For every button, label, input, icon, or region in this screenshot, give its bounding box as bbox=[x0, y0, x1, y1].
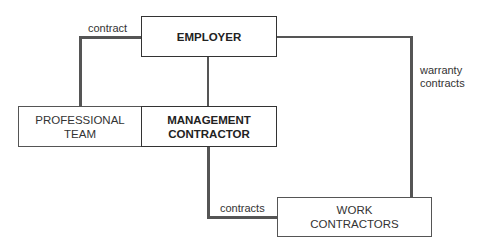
edge-warranty-horizontal bbox=[276, 36, 413, 38]
edge-warranty-vertical bbox=[410, 36, 413, 198]
node-professional-team-line2: TEAM bbox=[64, 127, 96, 141]
node-management-contractor-line2: CONTRACTOR bbox=[168, 127, 250, 141]
edge-employer-professional-vertical bbox=[79, 36, 82, 107]
node-work-contractors-line2: CONTRACTORS bbox=[310, 217, 399, 231]
node-employer-label: EMPLOYER bbox=[177, 30, 242, 44]
edge-label-warranty-line2: contracts bbox=[420, 77, 465, 90]
edge-management-work-vertical bbox=[207, 146, 210, 218]
edge-management-work-horizontal bbox=[207, 216, 278, 219]
edge-employer-professional-horizontal bbox=[79, 36, 142, 39]
node-professional-team-line1: PROFESSIONAL bbox=[35, 113, 124, 127]
edge-label-contract: contract bbox=[88, 22, 127, 35]
edge-employer-management bbox=[207, 56, 209, 107]
edge-label-warranty-contracts: warranty contracts bbox=[420, 64, 465, 90]
node-work-contractors: WORK CONTRACTORS bbox=[277, 197, 432, 237]
node-employer: EMPLOYER bbox=[141, 16, 277, 57]
edge-label-warranty-line1: warranty bbox=[420, 64, 465, 77]
edge-label-contracts: contracts bbox=[220, 202, 265, 215]
node-professional-team: PROFESSIONAL TEAM bbox=[18, 106, 142, 147]
node-management-contractor: MANAGEMENT CONTRACTOR bbox=[141, 106, 277, 147]
node-management-contractor-line1: MANAGEMENT bbox=[167, 113, 251, 127]
node-work-contractors-line1: WORK bbox=[337, 203, 373, 217]
